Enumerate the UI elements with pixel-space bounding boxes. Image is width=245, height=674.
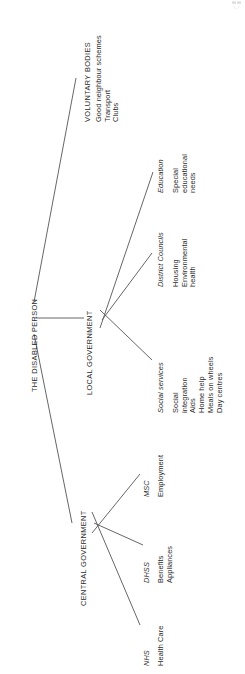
agency-label-msc: MSC: [143, 480, 152, 497]
service-list-nhs: Health Care: [157, 625, 166, 666]
agency-label-dhss: DHSS: [143, 562, 152, 583]
service-item: Health Care: [157, 625, 166, 666]
service-item: Day centres: [216, 356, 225, 413]
service-item: Employment: [157, 455, 166, 497]
service-list-dhss: Benefits Appliances: [157, 546, 174, 583]
scan-artifact-mark: [231, 1, 243, 10]
branch-label-local-government: LOCAL GOVERNMENT: [86, 310, 95, 395]
edge-root-voluntary: [34, 78, 76, 302]
service-list-msc: Employment: [157, 455, 166, 497]
edge-local-district: [102, 253, 152, 320]
agency-label-social-services: Social services: [157, 362, 166, 413]
service-list-voluntary-bodies: Good neighbour schemes Transport Clubs: [95, 35, 121, 122]
edge-local-education: [100, 172, 153, 328]
edge-local-social: [100, 310, 152, 360]
agency-label-district-councils: District Councils: [157, 232, 166, 287]
root-node-label: THE DISABLED PERSON: [31, 299, 40, 392]
service-list-social-services: Social integration Aids Home help Meals …: [172, 356, 224, 413]
agency-label-education: Education: [157, 159, 166, 193]
branch-label-central-government: CENTRAL GOVERNMENT: [80, 510, 89, 606]
service-item: Appliances: [166, 546, 175, 583]
diagram-canvas: THE DISABLED PERSON VOLUNTARY BODIES Goo…: [0, 0, 245, 674]
service-item: Clubs: [112, 35, 121, 122]
agency-label-nhs: NHS: [143, 650, 152, 666]
edge-central-msc: [92, 474, 140, 533]
service-item: needs: [189, 154, 198, 193]
edge-central-dhss: [94, 523, 143, 545]
service-item: health: [189, 238, 198, 287]
service-list-education: Special educational needs: [172, 154, 198, 193]
service-list-district-councils: Housing Environmental health: [172, 238, 198, 287]
edge-central-nhs: [92, 512, 140, 625]
branch-label-voluntary-bodies: VOLUNTARY BODIES: [84, 42, 93, 122]
